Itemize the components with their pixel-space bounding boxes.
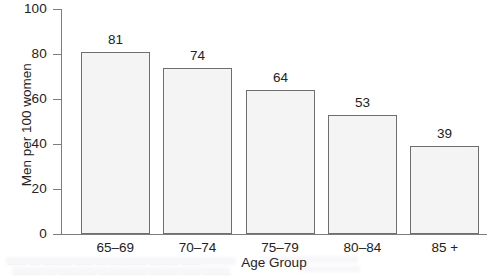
y-tick-60	[53, 99, 61, 100]
y-tick-label-80: 80	[32, 47, 47, 61]
bar-value-label-65–69: 81	[81, 33, 150, 47]
y-tick-label-100: 100	[24, 2, 47, 16]
plot-area: 020406080100 8165–697470–746475–795380–8…	[0, 0, 499, 279]
bar-value-label-75–79: 64	[246, 71, 315, 85]
y-tick-label-0: 0	[39, 227, 47, 241]
bar-value-label-85 +: 39	[410, 127, 479, 141]
bar-75–79	[246, 90, 315, 234]
y-tick-80	[53, 54, 61, 55]
y-tick-0	[53, 234, 61, 235]
x-category-label-85 +: 85 +	[395, 241, 495, 255]
y-tick-40	[53, 144, 61, 145]
bar-value-label-80–84: 53	[328, 96, 397, 110]
bar-70–74	[163, 68, 232, 234]
bar-value-label-70–74: 74	[163, 49, 232, 63]
bar-65–69	[81, 52, 150, 234]
y-tick-20	[53, 189, 61, 190]
x-axis-title: Age Group	[61, 256, 487, 270]
x-axis-line	[61, 234, 487, 235]
bar-chart: 020406080100 8165–697470–746475–795380–8…	[0, 0, 499, 279]
y-axis-line	[61, 9, 62, 235]
y-tick-100	[53, 9, 61, 10]
bar-80–84	[328, 115, 397, 234]
y-axis-title: Men per 100 women	[20, 35, 34, 215]
bar-85 +	[410, 146, 479, 234]
